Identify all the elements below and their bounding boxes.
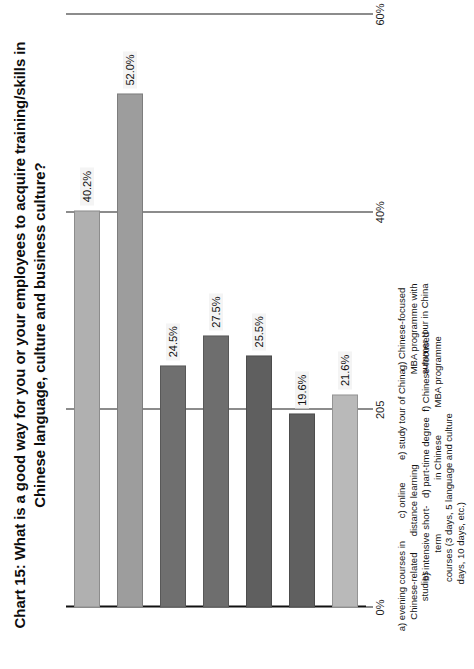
bar-row: 27.5% bbox=[203, 14, 229, 607]
category-label: d) part-time degree in Chinese language … bbox=[420, 411, 455, 503]
bar-value-label: 25.5% bbox=[252, 313, 266, 350]
bar-row: 52.0% bbox=[117, 14, 143, 607]
bar[interactable] bbox=[203, 335, 229, 607]
bar-row: 40.2% bbox=[74, 14, 100, 607]
bar-row: 25.5% bbox=[246, 14, 272, 607]
bar[interactable] bbox=[74, 210, 100, 607]
tick-60% bbox=[366, 13, 373, 14]
bar-row: 24.5% bbox=[160, 14, 186, 607]
bar-value-label: 19.6% bbox=[295, 371, 309, 408]
bar[interactable] bbox=[160, 365, 186, 607]
bar-value-label: 21.6% bbox=[338, 351, 352, 388]
bar[interactable] bbox=[117, 93, 143, 607]
bar-value-label: 40.2% bbox=[80, 168, 94, 205]
bar[interactable] bbox=[289, 413, 315, 607]
tick-40% bbox=[366, 211, 373, 212]
category-label: b) intensive short-term courses (3 days,… bbox=[420, 497, 466, 589]
tick-label: 40% bbox=[374, 201, 386, 223]
axis-tick-labels: 0%20540%60% bbox=[374, 14, 396, 607]
category-labels: a) evening courses in Chinese-related st… bbox=[396, 14, 472, 607]
tick-0% bbox=[366, 606, 373, 607]
category-label: g) Chinese-focused MBA programme with su… bbox=[396, 282, 431, 374]
chart-figure: Chart 15: What is a good way for you or … bbox=[0, 0, 474, 669]
tick-label: 205 bbox=[374, 400, 386, 418]
bar-value-label: 24.5% bbox=[166, 323, 180, 360]
plot-inner: 40.2%52.0%24.5%27.5%25.5%19.6%21.6% bbox=[66, 14, 366, 607]
tick-label: 0% bbox=[374, 599, 386, 615]
category-label: e) study tour of China bbox=[396, 368, 408, 460]
tick-205 bbox=[366, 408, 373, 409]
bar-row: 21.6% bbox=[332, 14, 358, 607]
bar-row: 19.6% bbox=[289, 14, 315, 607]
bar-value-label: 27.5% bbox=[209, 293, 223, 330]
tick-label: 60% bbox=[374, 3, 386, 25]
rotated-figure-wrapper: Chart 15: What is a good way for you or … bbox=[0, 0, 474, 669]
bar[interactable] bbox=[332, 394, 358, 607]
plot-area: 40.2%52.0%24.5%27.5%25.5%19.6%21.6% bbox=[66, 14, 366, 607]
axis-ticks bbox=[366, 14, 374, 607]
bar-value-label: 52.0% bbox=[123, 51, 137, 88]
category-label: c) online distance learning bbox=[396, 454, 419, 546]
chart-title: Chart 15: What is a good way for you or … bbox=[10, 0, 50, 669]
bar[interactable] bbox=[246, 355, 272, 607]
